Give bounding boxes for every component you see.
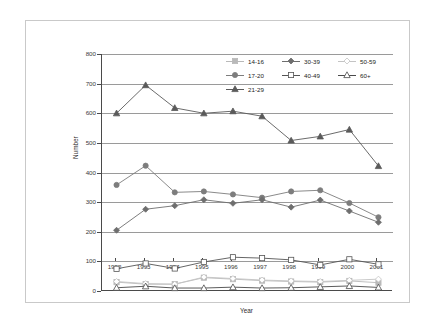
legend-entry-30-39[interactable]: 30-39: [282, 58, 338, 65]
data-point: [346, 208, 352, 214]
series-50-59: [114, 274, 382, 287]
data-point: [347, 200, 352, 205]
legend-marker-icon: [338, 75, 356, 76]
legend-label: 60+: [360, 72, 371, 79]
legend-marker-icon: [226, 89, 244, 90]
legend-entry-60+[interactable]: 60+: [338, 72, 394, 79]
legend-marker-icon: [338, 61, 356, 62]
legend-row: 21-29: [226, 82, 394, 96]
legend-label: 14-16: [248, 58, 264, 65]
legend-marker-icon: [282, 75, 300, 76]
y-axis-label: Number: [72, 136, 79, 159]
data-point: [172, 203, 178, 209]
series-17-20: [114, 163, 381, 220]
data-point: [230, 255, 235, 260]
y-tick-label: 800: [86, 51, 96, 57]
data-point: [289, 257, 294, 262]
data-point: [318, 188, 323, 193]
data-point: [201, 189, 206, 194]
legend-entry-14-16[interactable]: 14-16: [226, 58, 282, 65]
legend-entry-21-29[interactable]: 21-29: [226, 86, 282, 93]
legend-entry-50-59[interactable]: 50-59: [338, 58, 394, 65]
series-line: [117, 257, 379, 269]
data-point: [347, 257, 352, 262]
data-point: [143, 163, 148, 168]
series-line: [117, 85, 379, 166]
y-tick-label: 700: [86, 81, 96, 87]
legend-label: 17-20: [248, 72, 264, 79]
legend-entry-40-49[interactable]: 40-49: [282, 72, 338, 79]
legend-marker-icon: [226, 75, 244, 76]
chart-screenshot: Number Year 0100200300400500600700800 19…: [0, 0, 440, 326]
legend-label: 21-29: [248, 86, 264, 93]
legend-label: 50-59: [360, 58, 376, 65]
legend-label: 30-39: [304, 58, 320, 65]
legend-row: 17-2040-4960+: [226, 68, 394, 82]
data-point: [289, 189, 294, 194]
series-line: [117, 166, 379, 218]
y-tick-label: 300: [86, 199, 96, 205]
x-axis-label: Year: [101, 307, 392, 314]
series-30-39: [114, 197, 382, 234]
figure-frame: Number Year 0100200300400500600700800 19…: [25, 20, 410, 303]
y-tick-label: 400: [86, 170, 96, 176]
data-point: [142, 82, 148, 88]
data-point: [172, 105, 178, 111]
data-point: [172, 266, 177, 271]
legend-label: 40-49: [304, 72, 320, 79]
y-tick-label: 0: [93, 288, 96, 294]
data-point: [230, 200, 236, 206]
data-point: [230, 108, 236, 114]
data-point: [114, 182, 119, 187]
data-point: [346, 126, 352, 132]
legend-row: 14-1630-3950-59: [226, 54, 394, 68]
data-point: [114, 266, 119, 271]
y-tick-mark: [97, 291, 101, 292]
data-point: [230, 192, 235, 197]
data-point: [317, 197, 323, 203]
data-point: [172, 190, 177, 195]
data-point: [259, 256, 264, 261]
legend-marker-icon: [226, 61, 244, 62]
series-line: [117, 286, 379, 288]
legend-entry-17-20[interactable]: 17-20: [226, 72, 282, 79]
data-point: [201, 259, 206, 264]
series-40-49: [114, 255, 381, 272]
data-point: [143, 261, 148, 266]
data-point: [376, 262, 381, 267]
y-tick-label: 600: [86, 110, 96, 116]
data-point: [318, 262, 323, 267]
series-line: [117, 200, 379, 231]
legend-marker-icon: [282, 61, 300, 62]
y-tick-label: 200: [86, 229, 96, 235]
data-point: [114, 227, 120, 233]
data-point: [143, 206, 149, 212]
data-point: [288, 204, 294, 210]
series-line: [117, 277, 379, 284]
legend: 14-1630-3950-5917-2040-4960+21-29: [226, 54, 394, 96]
data-point: [201, 197, 207, 203]
y-tick-label: 100: [86, 258, 96, 264]
y-tick-label: 500: [86, 140, 96, 146]
data-point: [375, 219, 381, 225]
